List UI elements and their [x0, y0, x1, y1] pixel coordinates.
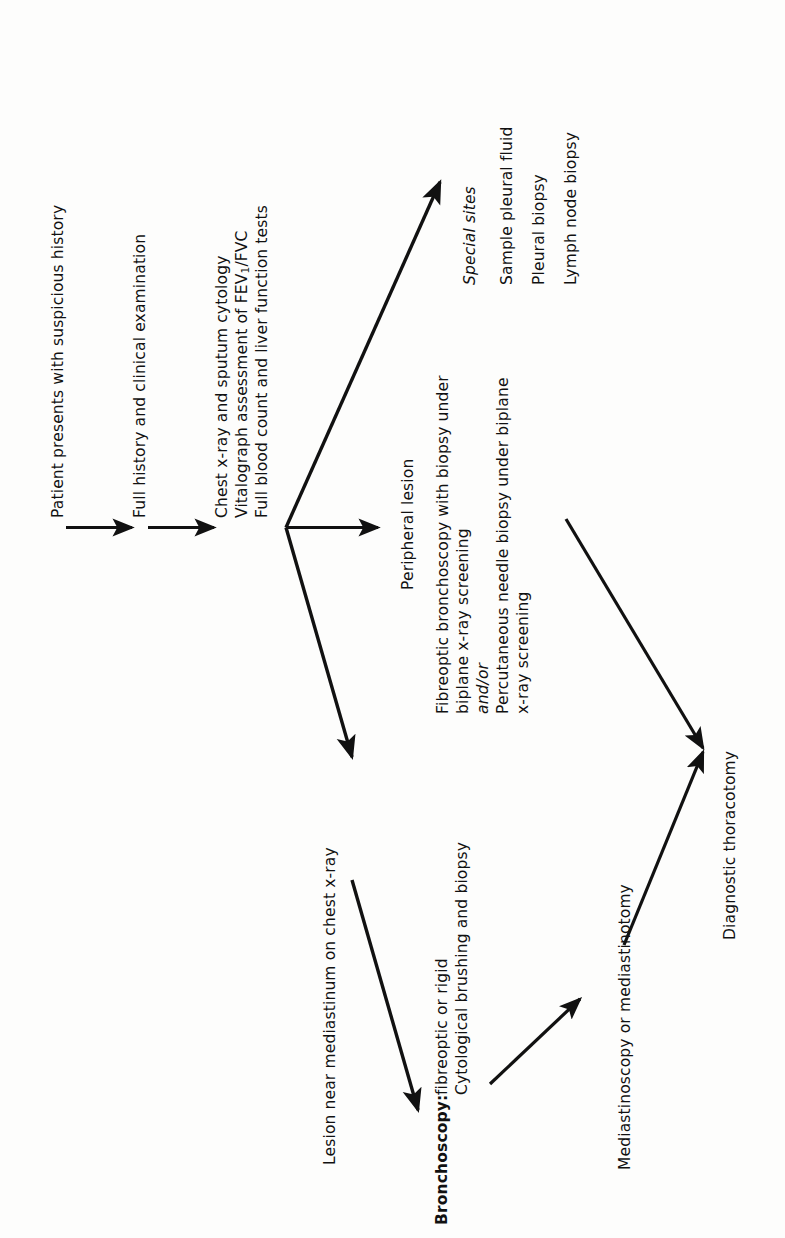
investigations-fev-subscript: 1 — [239, 267, 251, 274]
arrow-mediastinoscopy-to-thoracotomy — [624, 752, 703, 945]
node-special-sites-item-3: Lymph node biopsy — [561, 132, 582, 285]
node-start: Patient presents with suspicious history — [48, 205, 69, 518]
node-investigations-line-3: Full blood count and liver function test… — [252, 205, 273, 518]
node-special-sites-item-1: Sample pleural fluid — [497, 127, 518, 285]
node-peripheral-detail-line-3: and/or — [473, 663, 494, 714]
node-special-sites-item-2: Pleural biopsy — [529, 174, 550, 285]
investigations-fev-prefix: Vitalograph assessment of FEV — [233, 273, 251, 518]
node-bronchoscopy-line-1: fibreoptic or rigid — [432, 958, 453, 1095]
arrow-peripheral-to-thoracotomy — [566, 519, 703, 748]
node-mediastinoscopy: Mediastinoscopy or mediastinotomy — [615, 884, 636, 1170]
node-history: Full history and clinical examination — [130, 234, 151, 518]
node-peripheral-detail-line-4: Percutaneous needle biopsy under biplane — [493, 377, 514, 714]
investigations-fvc-suffix: /FVC — [233, 230, 251, 266]
node-special-sites-heading: Special sites — [460, 186, 481, 285]
node-peripheral-lesion: Peripheral lesion — [398, 459, 419, 590]
node-bronchoscopy-label: Bronchoscopy: — [432, 1095, 453, 1225]
arrow-layer — [0, 0, 785, 1238]
node-bronchoscopy-line-2: Cytological brushing and biopsy — [452, 842, 473, 1095]
node-thoracotomy: Diagnostic thoracotomy — [720, 751, 741, 940]
arrow-mediastinum-to-bronchoscopy — [352, 880, 418, 1110]
node-investigations-line-1: Chest x-ray and sputum cytology — [212, 256, 233, 518]
arrow-bronchoscopy-to-mediastinoscopy — [490, 999, 580, 1084]
flowchart-canvas: Patient presents with suspicious history… — [0, 0, 785, 1238]
node-peripheral-detail-line-2: biplane x-ray screening — [453, 528, 474, 714]
node-mediastinum-lesion: Lesion near mediastinum on chest x-ray — [320, 847, 341, 1165]
node-peripheral-detail-line-5: x-ray screening — [513, 592, 534, 714]
arrow-investigations-to-mediastinum-lesion — [286, 528, 352, 758]
node-peripheral-detail-line-1: Fibreoptic bronchoscopy with biopsy unde… — [433, 375, 454, 714]
